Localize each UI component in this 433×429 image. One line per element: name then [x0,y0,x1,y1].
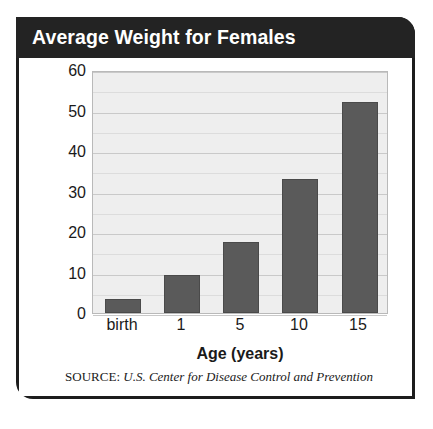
x-tick-label: 10 [290,316,308,334]
source-note: SOURCE: U.S. Center for Disease Control … [39,369,399,385]
y-tick-label: 0 [56,305,86,323]
chart-card: Average Weight for Females Weight (kilog… [16,17,415,399]
source-text: U.S. Center for Disease Control and Prev… [123,369,373,384]
x-axis-title: Age (years) [92,345,388,363]
x-tick-label: birth [106,316,137,334]
bar [105,299,141,313]
x-tick-label: 5 [236,316,245,334]
x-tick-label: 1 [177,316,186,334]
y-tick-label: 10 [56,265,86,283]
bar [282,179,318,313]
y-tick-label: 50 [56,103,86,121]
y-tick-label: 40 [56,143,86,161]
page-title: Average Weight for Females [32,26,296,49]
bar [342,102,378,313]
y-axis-tick-labels: 0102030405060 [54,71,86,314]
bar-series [93,72,387,313]
x-axis-tick-labels: birth151015 [92,316,388,340]
x-tick-label: 15 [349,316,367,334]
bar [223,242,259,313]
source-prefix: SOURCE: [65,369,120,384]
chart-body: Weight (kilograms) 0102030405060 birth15… [19,58,412,396]
plot-area [92,71,388,314]
bar [164,275,200,313]
y-tick-label: 60 [56,62,86,80]
chart-title-bar: Average Weight for Females [16,17,415,58]
y-tick-label: 20 [56,224,86,242]
y-tick-label: 30 [56,184,86,202]
